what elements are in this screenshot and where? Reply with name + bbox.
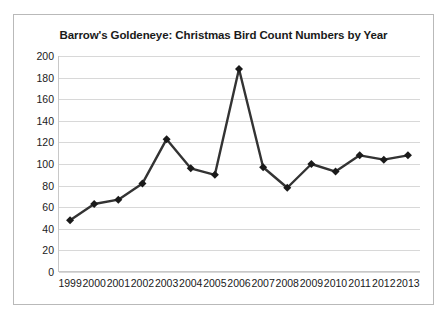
- x-tick-label: 2004: [179, 277, 202, 289]
- y-tick-label: 120: [14, 136, 54, 148]
- y-tick-label: 0: [14, 266, 54, 278]
- x-tick-label: 1999: [58, 277, 81, 289]
- x-tick-label: 2006: [227, 277, 250, 289]
- series-markers: [66, 65, 412, 224]
- y-tick-label: 20: [14, 244, 54, 256]
- x-tick-label: 2001: [107, 277, 130, 289]
- y-tick-label: 140: [14, 115, 54, 127]
- chart-title: Barrow's Goldeneye: Christmas Bird Count…: [14, 29, 433, 41]
- x-tick-label: 2012: [372, 277, 395, 289]
- y-tick-label: 40: [14, 223, 54, 235]
- x-tick-label: 2009: [300, 277, 323, 289]
- x-tick-label: 2011: [348, 277, 371, 289]
- x-axis-tick-labels: 1999200020012002200320042005200620072008…: [58, 277, 420, 295]
- data-point-marker: [235, 65, 243, 73]
- x-tick-label: 2002: [131, 277, 154, 289]
- x-tick-label: 2008: [276, 277, 299, 289]
- data-series-line: [58, 56, 420, 272]
- y-tick-label: 160: [14, 93, 54, 105]
- data-point-marker: [380, 156, 388, 164]
- x-tick-label: 2010: [324, 277, 347, 289]
- x-tick-label: 2000: [83, 277, 106, 289]
- series-polyline: [70, 69, 408, 220]
- x-tick-label: 2013: [396, 277, 419, 289]
- x-tick-label: 2003: [155, 277, 178, 289]
- y-tick-label: 100: [14, 158, 54, 170]
- data-point-marker: [404, 151, 412, 159]
- gridline: [59, 272, 420, 273]
- y-tick-label: 180: [14, 72, 54, 84]
- y-axis-tick-labels: 020406080100120140160180200: [14, 56, 54, 272]
- y-tick-label: 80: [14, 180, 54, 192]
- chart-frame: Barrow's Goldeneye: Christmas Bird Count…: [13, 14, 434, 305]
- x-tick-label: 2005: [203, 277, 226, 289]
- x-tick-label: 2007: [251, 277, 274, 289]
- y-tick-label: 200: [14, 50, 54, 62]
- y-tick-label: 60: [14, 201, 54, 213]
- data-point-marker: [211, 171, 219, 179]
